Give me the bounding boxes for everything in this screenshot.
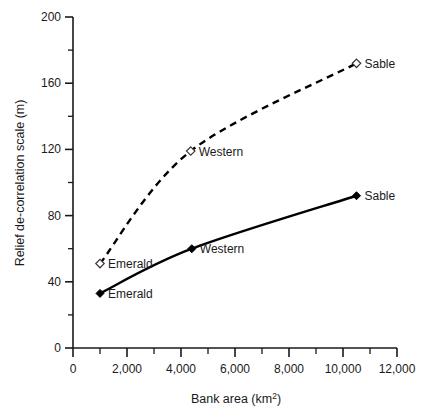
series-group: EmeraldWesternSableEmeraldWesternSable [96,57,396,301]
point-label: Sable [365,57,396,71]
y-axis-title: Relief de-correlation scale (m) [13,100,27,267]
marker-lower-solid [353,192,361,200]
y-tick-label: 80 [48,209,62,223]
chart-canvas: 04080120160200 02,0004,0006,0008,00010,0… [0,0,431,419]
x-axis: 02,0004,0006,0008,00010,00012,000 [70,348,416,376]
point-label: Sable [365,189,396,203]
x-tick-label: 0 [70,362,77,376]
y-tick-label: 120 [41,142,61,156]
point-label: Western [199,145,243,159]
x-tick-label: 10,000 [325,362,362,376]
series-line-upper-dashed [100,63,357,263]
x-tick-label: 12,000 [379,362,416,376]
marker-lower-solid [188,245,196,253]
point-label: Emerald [108,257,153,271]
marker-lower-solid [96,289,104,297]
y-tick-label: 200 [41,10,61,24]
x-axis-title: Bank area (km2) [191,391,281,406]
point-label: Western [200,242,244,256]
point-label: Emerald [108,287,153,301]
y-tick-label: 0 [54,341,61,355]
y-axis: 04080120160200 [41,10,73,355]
x-tick-label: 2,000 [112,362,142,376]
chart-figure: 04080120160200 02,0004,0006,0008,00010,0… [0,0,431,419]
data-point-labels: EmeraldWesternSableEmeraldWesternSable [108,57,396,301]
x-tick-label: 8,000 [274,362,304,376]
marker-upper-dashed [352,59,360,67]
x-tick-label: 4,000 [166,362,196,376]
x-tick-label: 6,000 [220,362,250,376]
y-tick-label: 40 [48,275,62,289]
y-tick-label: 160 [41,76,61,90]
